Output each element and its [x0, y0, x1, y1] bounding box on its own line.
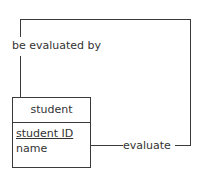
entity-name: student: [13, 98, 90, 123]
loop-bottom-horizontal-right: [175, 145, 191, 146]
attribute: name: [16, 141, 90, 156]
forward-relationship-label: evaluate: [123, 139, 171, 152]
loop-left-vertical-upper: [20, 19, 21, 37]
entity-student: student student ID name: [12, 97, 91, 168]
entity-attributes: student ID name: [13, 123, 90, 156]
reverse-relationship-label: be evaluated by: [12, 39, 101, 52]
loop-bottom-horizontal-left: [90, 145, 123, 146]
loop-top-horizontal: [20, 19, 191, 20]
loop-right-vertical: [190, 19, 191, 146]
attribute-primary-key: student ID: [16, 126, 90, 141]
loop-left-vertical-lower: [20, 56, 21, 97]
er-diagram: be evaluated by evaluate student student…: [0, 0, 204, 180]
